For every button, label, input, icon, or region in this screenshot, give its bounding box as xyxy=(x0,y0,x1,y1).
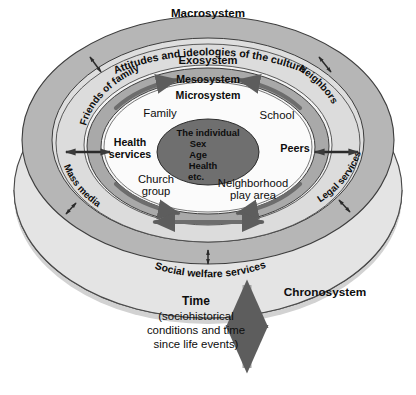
microsystem-item-school: School xyxy=(260,109,295,121)
diagram-canvas: The individual Sex Age Health etc. Macro… xyxy=(0,0,416,395)
exosystem-item-peers: Peers xyxy=(280,142,309,154)
microsystem-item-church-group: Church group xyxy=(138,173,174,197)
health-services-line1: Health xyxy=(114,136,146,148)
microsystem-item-family: Family xyxy=(143,107,177,119)
church-group-line2: group xyxy=(142,185,171,197)
individual-line2: Sex xyxy=(190,138,207,149)
exosystem-label: Exosystem xyxy=(178,54,237,66)
individual-line5: etc. xyxy=(188,171,204,182)
ecological-systems-svg: The individual Sex Age Health etc. Macro… xyxy=(0,0,416,395)
time-line3: since life events) xyxy=(154,338,239,350)
microsystem-label: Microsystem xyxy=(176,89,241,101)
time-line1: (sociohistorical xyxy=(158,310,233,322)
individual-line4: Health xyxy=(189,160,218,171)
exosystem-item-health-services: Health services xyxy=(109,136,152,160)
time-line2: conditions and time xyxy=(147,324,245,336)
health-services-line2: services xyxy=(109,148,152,160)
neighborhood-line2: play area xyxy=(230,189,277,201)
mesosystem-label: Mesosystem xyxy=(176,73,240,85)
neighborhood-line1: Neighborhood xyxy=(218,177,288,189)
chronosystem-label: Chronosystem xyxy=(284,285,367,299)
individual-line1: The individual xyxy=(176,127,239,138)
time-heading: Time xyxy=(182,294,210,308)
macrosystem-label: Macrosystem xyxy=(171,6,245,19)
church-group-line1: Church xyxy=(138,173,174,185)
individual-line3: Age xyxy=(189,149,207,160)
